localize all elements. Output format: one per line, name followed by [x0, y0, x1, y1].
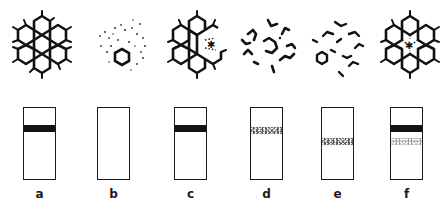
band-speckled — [251, 127, 282, 134]
band-solid — [391, 125, 422, 132]
partial-coronene-molecule-icon: ✱ — [160, 8, 234, 82]
panel-b: b — [85, 0, 159, 211]
panel-d: d — [232, 0, 306, 211]
band-speckled — [322, 138, 353, 145]
panel-e: e — [303, 0, 377, 211]
fragmented-molecule-icon — [232, 8, 306, 82]
band-solid — [24, 125, 55, 132]
panel-label-f: f — [390, 187, 423, 201]
panel-c: ✱ c — [160, 0, 234, 211]
dispersed-molecule-icon — [85, 8, 159, 82]
gel-lane-f — [390, 107, 423, 180]
coronene-molecule-icon — [5, 8, 79, 82]
band-light — [391, 138, 422, 145]
svg-text:✱: ✱ — [405, 40, 413, 51]
gel-lane-b — [97, 107, 130, 180]
panel-label-b: b — [97, 187, 130, 201]
scattered-fragments-icon — [303, 8, 377, 82]
panel-f: ✱ f — [373, 0, 447, 211]
gel-lane-a — [23, 107, 56, 180]
panel-label-e: e — [321, 187, 354, 201]
gel-lane-c — [174, 107, 207, 180]
panel-label-c: c — [174, 187, 207, 201]
band-solid — [175, 125, 206, 132]
panel-a: a — [5, 0, 79, 211]
svg-text:✱: ✱ — [207, 39, 215, 50]
panel-label-d: d — [250, 187, 283, 201]
panel-label-a: a — [23, 187, 56, 201]
gel-lane-d — [250, 107, 283, 180]
gel-lane-e — [321, 107, 354, 180]
ring-coronene-molecule-icon: ✱ — [373, 8, 447, 82]
